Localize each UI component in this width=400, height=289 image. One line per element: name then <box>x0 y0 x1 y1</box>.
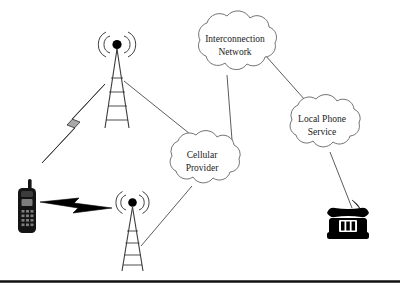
cell-tower-upper[interactable] <box>98 32 135 128</box>
tower-structure-lower <box>122 207 143 271</box>
tower-emitter-dot-lower <box>128 198 137 207</box>
link-interconnection-to-local-phone <box>265 55 305 100</box>
link-tower-lower-to-cellular-provider <box>141 186 192 246</box>
cloud-interconnection-network[interactable]: Interconnection Network <box>198 11 276 70</box>
tower-structure-upper <box>105 49 129 128</box>
cloud-local-phone-service[interactable]: Local Phone Service <box>290 95 360 147</box>
diagram-canvas: Interconnection Network Local Phone Serv… <box>0 0 400 289</box>
link-local-phone-to-desk-phone <box>330 152 352 208</box>
tower-emitter-dot-upper <box>112 40 121 49</box>
wireless-signal-lower <box>40 198 112 213</box>
handset-earpiece <box>21 191 33 197</box>
telephone-base-foot <box>327 232 369 239</box>
lightning-bolt-icon-upper <box>42 84 105 163</box>
cloud-label-local-phone-line2: Service <box>308 127 337 137</box>
cloud-label-local-phone-line1: Local Phone <box>298 114 346 124</box>
cloud-label-interconnection-line2: Network <box>218 47 251 57</box>
landline-telephone[interactable] <box>327 200 369 239</box>
cloud-cellular-provider[interactable]: Cellular Provider <box>170 131 240 183</box>
wireless-signal-upper <box>42 84 105 163</box>
network-diagram: Interconnection Network Local Phone Serv… <box>0 0 400 289</box>
lightning-bolt-icon-lower <box>40 198 112 213</box>
cloud-label-cellular-provider-line2: Provider <box>186 163 220 173</box>
cloud-label-cellular-provider-line1: Cellular <box>187 150 218 160</box>
handset-screen <box>22 199 33 206</box>
telephone-keypad-keys <box>341 222 355 231</box>
telephone-handset <box>327 208 369 217</box>
link-cellular-provider-to-interconnection <box>227 75 232 140</box>
cell-tower-lower[interactable] <box>116 192 149 272</box>
mobile-handset[interactable] <box>18 179 36 233</box>
cloud-label-interconnection-line1: Interconnection <box>205 34 265 44</box>
